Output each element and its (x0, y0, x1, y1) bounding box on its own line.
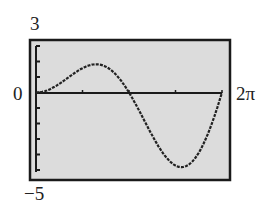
graph-window (0, 0, 272, 205)
graph-screen (30, 40, 230, 180)
